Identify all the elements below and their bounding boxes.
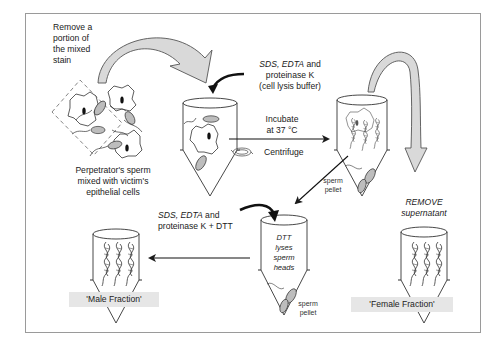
incubate-label: Incubate at 37 °C [252,114,312,136]
dtt-lyses-label: DTT lyses sperm heads [264,233,304,273]
dtt-buffer-label: SDS, EDTA and proteinase K + DTT [158,210,233,232]
mixed-cells-label: Perpetrator's sperm mixed with victim's … [58,165,168,198]
sperm-pellet-label-bottom: sperm pellet [293,299,323,317]
remove-supernatant-arrow-icon [368,52,427,172]
female-fraction-label: 'Female Fraction' [351,297,453,312]
tube-lysis [180,98,240,196]
transfer-arrow-icon [98,38,212,83]
remove-portion-label: Remove a portion of the mixed stain [53,22,92,66]
remove-supernatant-label: REMOVE supernatant [384,197,464,219]
centrifuge-label: Centrifuge [264,147,304,158]
mixed-stain-illustration [52,80,142,158]
tube-male [90,229,142,323]
male-fraction-label: 'Male Fraction' [69,292,159,307]
lysis-buffer-label: SDS, EDTA and proteinase K (cell lysis b… [240,59,340,92]
sperm-pellet-label-top: sperm pellet [318,176,348,194]
